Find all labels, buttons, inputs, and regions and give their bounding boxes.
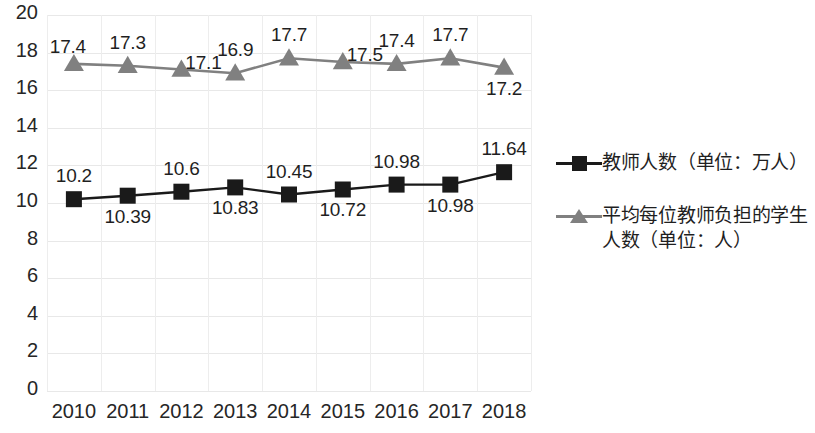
triangle-marker-icon	[556, 204, 602, 228]
legend-label-teacher-count: 教师人数（单位：万人）	[602, 150, 808, 175]
data-point-label: 16.9	[217, 39, 253, 61]
data-point-label: 10.72	[319, 199, 366, 221]
data-point-label: 17.3	[110, 32, 146, 54]
data-point-label: 10.2	[56, 165, 92, 187]
data-point-label: 10.98	[427, 195, 474, 217]
data-point-label: 17.5	[347, 44, 383, 66]
triangle-data-marker	[279, 48, 299, 65]
square-data-marker	[496, 164, 512, 180]
chart-legend: 教师人数（单位：万人） 平均每位教师负担的学生人数（单位：人）	[556, 150, 812, 281]
square-marker-icon	[556, 151, 602, 175]
triangle-data-marker	[440, 48, 460, 65]
line-chart: 02468101214161820 2010201120122013201420…	[0, 0, 815, 433]
data-point-label: 10.6	[163, 158, 199, 180]
data-point-label: 17.1	[185, 52, 221, 74]
square-data-marker	[173, 184, 189, 200]
data-point-label: 17.4	[50, 36, 86, 58]
square-data-marker	[389, 177, 405, 193]
square-data-marker	[442, 177, 458, 193]
legend-entry-teacher-count[interactable]: 教师人数（单位：万人）	[556, 150, 812, 175]
data-point-label: 10.98	[373, 151, 420, 173]
data-point-label: 10.39	[104, 206, 151, 228]
data-point-label: 11.64	[482, 138, 527, 160]
legend-label-student-teacher-ratio: 平均每位教师负担的学生人数（单位：人）	[602, 203, 812, 253]
data-point-label: 17.4	[378, 30, 414, 52]
square-data-marker	[335, 182, 351, 198]
square-data-marker	[120, 188, 136, 204]
square-data-marker	[281, 187, 297, 203]
data-point-label: 10.83	[212, 197, 259, 219]
legend-entry-student-teacher-ratio[interactable]: 平均每位教师负担的学生人数（单位：人）	[556, 203, 812, 253]
square-data-marker	[227, 179, 243, 195]
square-data-marker	[66, 191, 82, 207]
data-point-label: 17.2	[486, 78, 522, 100]
data-point-label: 17.7	[432, 24, 468, 46]
data-point-label: 10.45	[266, 161, 313, 183]
data-point-label: 17.7	[271, 24, 307, 46]
